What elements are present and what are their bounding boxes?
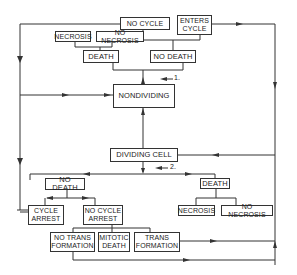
node-necrosis-top: NECROSIS bbox=[55, 31, 91, 42]
node-no-necrosis-bottom: NO NECROSIS bbox=[221, 205, 273, 216]
node-necrosis-bottom: NECROSIS bbox=[178, 205, 215, 216]
node-cycle-arrest: CYCLE ARREST bbox=[28, 205, 64, 225]
node-transformation: TRANS FORMATION bbox=[134, 232, 180, 252]
node-no-necrosis-top: NO NECROSIS bbox=[96, 31, 144, 42]
node-dividing-cell: DIVIDING CELL bbox=[110, 148, 178, 162]
node-no-transformation: NO TRANS FORMATION bbox=[50, 232, 95, 252]
node-mitotic-death: MITOTIC DEATH bbox=[98, 232, 130, 252]
node-nondividing: NONDIVIDING bbox=[113, 84, 175, 108]
step-label-1: 1. bbox=[174, 74, 180, 81]
node-no-death-bottom: NO DEATH bbox=[45, 178, 85, 190]
node-death-bottom: DEATH bbox=[200, 178, 230, 189]
node-death-top: DEATH bbox=[83, 50, 119, 63]
node-no-death-top: NO DEATH bbox=[150, 50, 196, 63]
node-no-cycle-arrest: NO CYCLE ARREST bbox=[83, 205, 123, 225]
node-enters-cycle: ENTERS CYCLE bbox=[177, 15, 212, 35]
cell-fate-diagram: NO CYCLE ENTERS CYCLE NECROSIS NO NECROS… bbox=[0, 0, 297, 275]
step-label-2: 2. bbox=[170, 163, 176, 170]
